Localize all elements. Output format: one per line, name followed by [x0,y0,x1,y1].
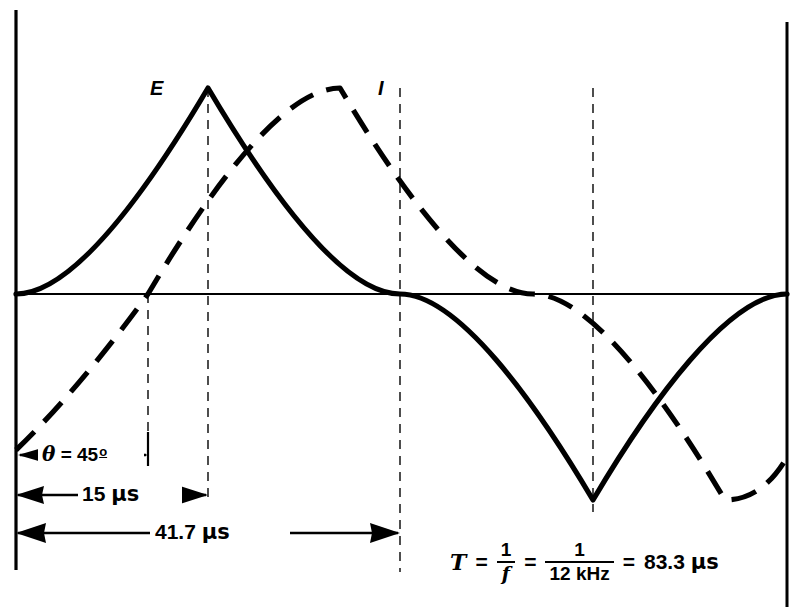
phase-time-dimension-label: 15 μs [82,483,139,505]
dim-15us-arrow-left [16,486,44,504]
period-formula: T = 1 f = 1 12 kHz = 83.3 μs [450,540,719,584]
period-partial-value: 41.7 [155,520,196,543]
formula-symbol-T: T [450,549,466,575]
fraction-1-numerator: 1 [497,540,516,561]
dim-417us-arrow-right [370,523,400,543]
phase-time-value: 15 [82,482,105,505]
fraction-1-denominator: f [498,563,514,584]
period-partial-dimension-label: 41.7 μs [155,521,230,543]
period-partial-unit: μs [202,520,230,544]
formula-fraction-1-over-12khz: 1 12 kHz [545,540,613,584]
formula-result-value: 83.3 [644,550,685,574]
theta-symbol: θ [42,442,55,466]
formula-equals-3: = [623,550,635,574]
phase-angle-annotation: θ = 45o [42,444,107,464]
current-curve-label: I [378,78,384,98]
dim-417us-arrow-left [16,523,46,543]
waveform-plot [0,0,802,607]
phase-time-unit: μs [111,482,139,506]
formula-equals-2: = [524,550,536,574]
dim-15us-arrow-right [180,486,208,504]
fraction-2-numerator: 1 [570,540,589,561]
formula-equals-1: = [475,550,487,574]
formula-result-unit: μs [691,550,719,574]
waveform-figure: E I θ = 45o 15 μs 41.7 μs T = 1 f = 1 12… [0,0,802,607]
voltage-curve-label: E [150,78,163,98]
phase-angle-equals: = [61,444,72,465]
fraction-2-denominator: 12 kHz [545,563,613,584]
phase-angle-value: 45 [77,444,98,465]
degree-symbol: o [99,444,107,459]
formula-fraction-1-over-f: 1 f [497,540,516,584]
